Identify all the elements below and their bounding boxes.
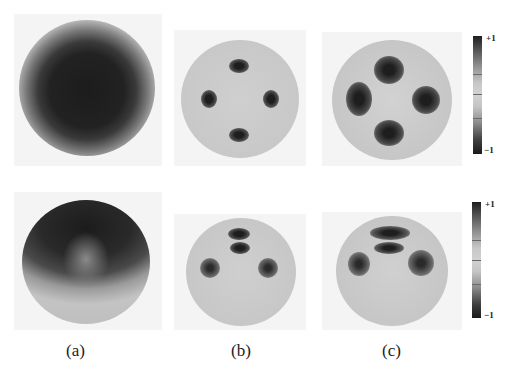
lobe-top-upper [370, 226, 410, 240]
lobe-bottom [374, 120, 404, 146]
lobe-right [408, 250, 434, 276]
spot-left [200, 258, 220, 278]
colorbar-row2-max-label: +1 [485, 199, 495, 209]
spot-right [263, 90, 279, 108]
spot-bottom [229, 128, 249, 142]
column-label-a: (a) [66, 341, 85, 361]
sphere-row2-b [186, 218, 296, 326]
colorbar-row1-min-label: −1 [484, 145, 494, 155]
spot-top-lower [230, 242, 250, 254]
lobe-left [348, 252, 370, 276]
lobe-top-lower [374, 242, 404, 254]
lobe-top [374, 56, 404, 84]
spot-left [201, 90, 217, 108]
sphere-row1-c [332, 40, 452, 160]
colorbar-row1-max-label: +1 [486, 33, 496, 43]
colorbar-row2 [472, 202, 481, 318]
lobe-right [412, 86, 440, 114]
colorbar-row2-min-label: −1 [484, 310, 494, 320]
sphere-row2-a [22, 200, 150, 324]
spot-top-upper [228, 228, 250, 240]
column-label-c: (c) [382, 341, 401, 361]
spot-top [229, 59, 249, 73]
sphere-row1-b [181, 40, 299, 158]
sphere-row1-a [19, 20, 155, 156]
colorbar-row1 [473, 36, 482, 154]
lobe-left [346, 82, 372, 116]
sphere-row2-c [336, 216, 448, 326]
spot-right [258, 258, 278, 278]
column-label-b: (b) [231, 341, 251, 361]
